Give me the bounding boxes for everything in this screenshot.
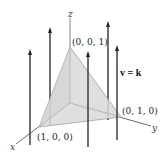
vector-field-diagram: z x y (0, 0, 1) (1, 0, 0) (0, 1, 0) v = … <box>0 0 163 161</box>
arrow-head-icon <box>106 21 110 27</box>
vertex-label-z: (0, 0, 1) <box>72 37 108 47</box>
z-axis-label: z <box>67 9 73 19</box>
x-axis-label: x <box>10 142 15 152</box>
y-axis-label: y <box>151 123 158 133</box>
arrow-head-icon <box>115 45 119 51</box>
field-label: v = k <box>120 67 142 78</box>
vertex-label-x: (1, 0, 0) <box>37 132 73 142</box>
vertex-label-y: (0, 1, 0) <box>122 106 158 116</box>
arrow-head-icon <box>86 51 90 57</box>
arrow-head-icon <box>48 27 52 33</box>
arrow-head-icon <box>28 49 32 55</box>
